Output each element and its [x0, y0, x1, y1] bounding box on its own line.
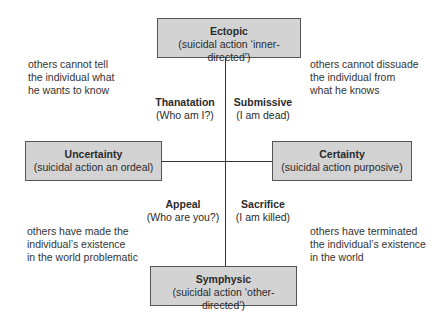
box-ectopic-title: Ectopic	[158, 25, 300, 38]
quadrant-appeal: Appeal (Who are you?)	[144, 198, 222, 224]
quadrant-submissive: Submissive (I am dead)	[228, 96, 298, 122]
box-certainty-title: Certainty	[273, 148, 411, 161]
note-bottom-right: others have terminated the individual’s …	[310, 225, 426, 264]
box-symphysic-title: Symphysic	[151, 273, 296, 286]
box-certainty-subtitle: (suicidal action purposive)	[273, 161, 411, 174]
horizontal-axis-line	[162, 161, 272, 162]
box-symphysic-subtitle: (suicidal action ‘other-directed’)	[151, 286, 296, 312]
box-uncertainty: Uncertainty (suicidal action an ordeal)	[25, 141, 162, 181]
quadrant-appeal-title: Appeal	[144, 198, 222, 211]
note-top-right: others cannot dissuade the individual fr…	[310, 58, 419, 97]
quadrant-sacrifice-title: Sacrifice	[228, 198, 298, 211]
quadrant-sacrifice-subtitle: (I am killed)	[228, 211, 298, 224]
box-ectopic-subtitle: (suicidal action ‘inner-directed’)	[158, 38, 300, 64]
box-symphysic: Symphysic (suicidal action ‘other-direct…	[150, 266, 297, 306]
quadrant-submissive-subtitle: (I am dead)	[228, 109, 298, 122]
quadrant-thanatation-subtitle: (Who am I?)	[150, 109, 220, 122]
quadrant-submissive-title: Submissive	[228, 96, 298, 109]
box-ectopic: Ectopic (suicidal action ‘inner-directed…	[157, 18, 301, 58]
note-top-left: others cannot tell the individual what h…	[28, 58, 114, 97]
box-uncertainty-title: Uncertainty	[26, 148, 161, 161]
box-certainty: Certainty (suicidal action purposive)	[272, 141, 412, 181]
quadrant-sacrifice: Sacrifice (I am killed)	[228, 198, 298, 224]
quadrant-thanatation: Thanatation (Who am I?)	[150, 96, 220, 122]
vertical-axis-line	[225, 58, 226, 266]
box-uncertainty-subtitle: (suicidal action an ordeal)	[26, 161, 161, 174]
note-bottom-left: others have made the individual’s existe…	[27, 225, 138, 264]
quadrant-appeal-subtitle: (Who are you?)	[144, 211, 222, 224]
quadrant-thanatation-title: Thanatation	[150, 96, 220, 109]
